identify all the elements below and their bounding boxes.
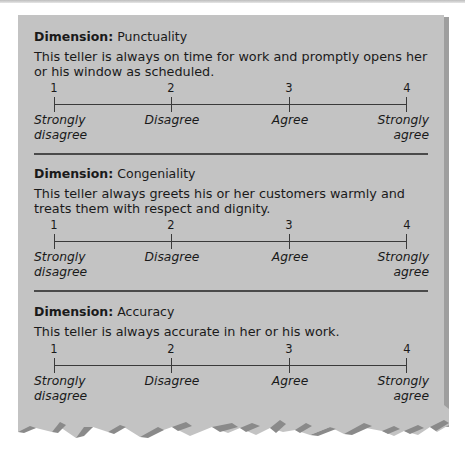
rating-scale: 1 2 3 4 Strongly disagree Disagree Agree… <box>34 81 429 151</box>
scale-point-2: 2 <box>161 218 181 232</box>
anchor-text: Strongly <box>34 374 87 389</box>
anchor-text: Strongly <box>378 250 430 265</box>
anchor-text: agree <box>378 128 430 143</box>
anchor-disagree: Disagree <box>132 374 212 389</box>
scale-point-3: 3 <box>279 81 299 95</box>
dimension-heading: Dimension:Congeniality <box>34 166 196 181</box>
anchor-text: Strongly <box>378 113 430 128</box>
dimension-name: Accuracy <box>117 304 174 319</box>
dimension-label: Dimension: <box>34 29 113 44</box>
dimension-heading: Dimension:Punctuality <box>34 29 187 44</box>
anchor-text: disagree <box>34 128 87 143</box>
scale-point-1: 1 <box>44 342 64 356</box>
rating-scale: 1 2 3 4 Strongly disagree Disagree Agree… <box>34 218 429 288</box>
scale-point-1: 1 <box>44 81 64 95</box>
scale-line <box>54 365 407 366</box>
anchor-text: agree <box>378 265 430 280</box>
dimension-description: This teller always greets his or her cus… <box>34 186 429 216</box>
anchor-strongly-disagree: Strongly disagree <box>34 113 87 143</box>
anchor-agree: Agree <box>250 374 330 389</box>
anchor-strongly-agree: Strongly agree <box>378 250 430 280</box>
scale-line <box>54 104 407 105</box>
anchor-text: disagree <box>34 389 87 404</box>
rating-scale: 1 2 3 4 Strongly disagree Disagree Agree… <box>34 342 429 412</box>
dimension-heading: Dimension:Accuracy <box>34 304 174 319</box>
scale-point-4: 4 <box>397 81 417 95</box>
anchor-strongly-agree: Strongly agree <box>378 374 430 404</box>
scale-line <box>54 241 407 242</box>
scale-point-4: 4 <box>397 342 417 356</box>
anchor-strongly-disagree: Strongly disagree <box>34 250 87 280</box>
anchor-strongly-disagree: Strongly disagree <box>34 374 87 404</box>
anchor-text: Strongly <box>34 113 87 128</box>
dimension-name: Punctuality <box>117 29 187 44</box>
scale-point-3: 3 <box>279 218 299 232</box>
dimension-description: This teller is always accurate in her or… <box>34 324 429 339</box>
dimension-label: Dimension: <box>34 304 113 319</box>
anchor-strongly-agree: Strongly agree <box>378 113 430 143</box>
anchor-text: Strongly <box>378 374 430 389</box>
anchor-text: disagree <box>34 265 87 280</box>
scale-point-2: 2 <box>161 81 181 95</box>
top-border-rule <box>0 0 465 3</box>
anchor-agree: Agree <box>250 250 330 265</box>
anchor-text: Strongly <box>34 250 87 265</box>
section-divider <box>34 290 428 292</box>
dimension-description: This teller is always on time for work a… <box>34 49 429 79</box>
anchor-agree: Agree <box>250 113 330 128</box>
anchor-text: agree <box>378 389 430 404</box>
dimension-name: Congeniality <box>117 166 195 181</box>
anchor-disagree: Disagree <box>132 250 212 265</box>
scale-point-2: 2 <box>161 342 181 356</box>
dimension-label: Dimension: <box>34 166 113 181</box>
scale-point-3: 3 <box>279 342 299 356</box>
scale-point-1: 1 <box>44 218 64 232</box>
anchor-disagree: Disagree <box>132 113 212 128</box>
scale-point-4: 4 <box>397 218 417 232</box>
section-divider <box>34 153 428 155</box>
